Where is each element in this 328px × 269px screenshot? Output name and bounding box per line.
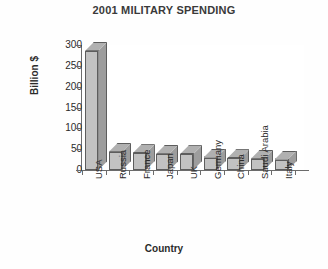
x-tick-mark bbox=[248, 171, 249, 175]
y-tick-mark bbox=[76, 87, 81, 88]
x-tick-mark bbox=[200, 171, 201, 175]
x-category-label: UK bbox=[188, 166, 199, 179]
x-tick-mark bbox=[129, 171, 130, 175]
x-tick-mark bbox=[82, 171, 83, 175]
x-category-label: Germany bbox=[212, 140, 223, 179]
x-tick-mark bbox=[295, 171, 296, 175]
x-tick-mark bbox=[177, 171, 178, 175]
x-axis-label: Country bbox=[0, 243, 328, 254]
military-spending-bar-chart: 2001 MILITARY SPENDING Billion $ 0501001… bbox=[0, 0, 328, 269]
x-tick-mark bbox=[153, 171, 154, 175]
y-tick-mark bbox=[76, 170, 81, 171]
bar bbox=[85, 42, 107, 170]
x-category-label: USA bbox=[93, 159, 104, 179]
y-tick-mark bbox=[76, 108, 81, 109]
x-category-label: Japan bbox=[164, 153, 175, 179]
x-category-label: China bbox=[235, 154, 246, 179]
x-tick-mark bbox=[271, 171, 272, 175]
x-category-label: Saudi Arabia bbox=[259, 125, 270, 179]
y-tick-mark bbox=[76, 149, 81, 150]
x-tick-mark bbox=[224, 171, 225, 175]
chart-title: 2001 MILITARY SPENDING bbox=[0, 4, 328, 16]
y-tick-mark bbox=[76, 66, 81, 67]
x-category-label: France bbox=[141, 149, 152, 179]
y-axis-label: Billion $ bbox=[29, 46, 40, 106]
x-category-label: Italy bbox=[283, 162, 294, 179]
bar-front-face bbox=[85, 51, 98, 170]
x-tick-mark bbox=[106, 171, 107, 175]
y-tick-mark bbox=[76, 128, 81, 129]
y-tick-mark bbox=[76, 45, 81, 46]
x-category-label: Russia bbox=[117, 150, 128, 179]
bar-side-face bbox=[98, 42, 107, 170]
